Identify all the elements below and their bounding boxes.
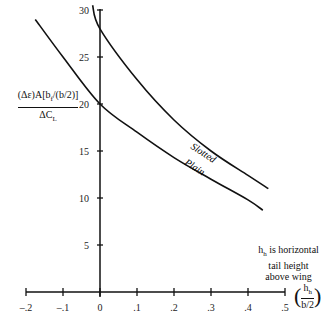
svg-text:5: 5 xyxy=(84,240,89,251)
svg-text:–.1: –.1 xyxy=(56,302,70,313)
svg-text:.1: .1 xyxy=(133,302,141,313)
y-axis-label: (Δε)A[bf/(b/2)] ΔCL xyxy=(4,88,92,126)
svg-text:–.2: –.2 xyxy=(19,302,33,313)
svg-text:30: 30 xyxy=(79,5,89,16)
svg-text:.3: .3 xyxy=(207,302,215,313)
svg-text:10: 10 xyxy=(79,193,89,204)
svg-text:.4: .4 xyxy=(244,302,252,313)
x-axis-label: (hhb/2) xyxy=(294,282,321,310)
svg-text:.5: .5 xyxy=(281,302,289,313)
svg-text:25: 25 xyxy=(79,52,89,63)
svg-text:15: 15 xyxy=(79,146,89,157)
annotation-note: hh is horizontal tail height above wing xyxy=(250,244,327,282)
svg-text:.2: .2 xyxy=(170,302,178,313)
svg-text:0: 0 xyxy=(98,302,103,313)
